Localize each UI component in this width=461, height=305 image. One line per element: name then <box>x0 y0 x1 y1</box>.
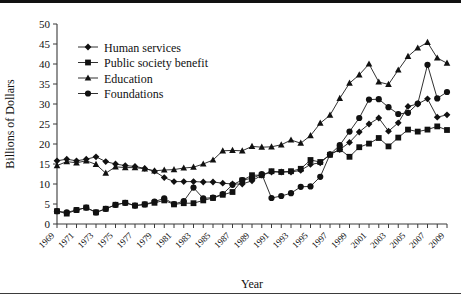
x-tick-label: 2005 <box>388 230 408 250</box>
data-point <box>269 168 275 174</box>
data-point <box>103 206 109 212</box>
x-tick-label: 1973 <box>76 230 96 250</box>
bottom-divider-rule <box>0 293 461 294</box>
data-point <box>346 129 352 135</box>
y-tick-label: 40 <box>39 58 51 70</box>
x-tick-label: 1985 <box>193 230 213 250</box>
series-line <box>57 99 447 184</box>
chart-figure: 0510152025303540455019691971197319751977… <box>0 0 461 305</box>
x-tick-label: 1979 <box>134 230 154 250</box>
data-point <box>93 153 100 160</box>
y-tick-label: 45 <box>39 38 51 50</box>
data-point <box>395 111 401 117</box>
data-point <box>405 110 411 116</box>
data-point <box>444 60 451 66</box>
data-point <box>414 44 421 50</box>
data-point <box>405 127 411 133</box>
data-point <box>415 129 421 135</box>
legend-marker-triangle <box>85 74 92 80</box>
data-point <box>385 104 391 110</box>
data-point <box>395 135 401 141</box>
x-tick-label: 1981 <box>154 230 174 250</box>
chart-legend: Human servicesPublic society benefitEduc… <box>78 41 209 102</box>
data-point <box>434 114 441 121</box>
data-point <box>376 96 382 102</box>
y-tick-label: 20 <box>39 138 51 150</box>
data-point <box>347 154 353 160</box>
data-point <box>434 95 440 101</box>
x-tick-label: 1989 <box>232 230 252 250</box>
data-point <box>327 151 333 157</box>
legend-label: Foundations <box>104 87 164 101</box>
legend-label: Education <box>104 72 153 86</box>
data-point <box>180 178 187 185</box>
data-point <box>259 171 265 177</box>
data-point <box>230 189 236 195</box>
data-point <box>181 198 187 204</box>
data-point <box>142 201 148 207</box>
top-divider-rule <box>0 0 461 3</box>
data-point <box>219 180 226 187</box>
legend-marker-diamond <box>85 44 92 51</box>
data-point <box>337 142 343 148</box>
y-tick-label: 5 <box>45 198 51 210</box>
x-tick-label: 1999 <box>329 230 349 250</box>
data-point <box>191 200 197 206</box>
legend-label: Human services <box>104 41 181 55</box>
y-tick-label: 15 <box>39 158 51 170</box>
x-tick-label: 1969 <box>37 230 57 250</box>
legend-marker-circle <box>85 90 91 96</box>
data-point <box>190 178 197 185</box>
y-tick-label: 0 <box>45 218 51 230</box>
x-tick-label: 2001 <box>349 230 369 250</box>
y-axis-title: Billions of Dollars <box>3 79 17 169</box>
x-tick-label: 1995 <box>290 230 310 250</box>
data-point <box>434 54 441 60</box>
series-line <box>57 126 447 213</box>
y-tick-label: 25 <box>39 118 51 130</box>
data-point <box>405 53 412 59</box>
data-point <box>317 159 323 165</box>
x-tick-label: 2007 <box>407 230 427 250</box>
x-tick-label: 1997 <box>310 230 330 250</box>
x-tick-label: 1987 <box>212 230 232 250</box>
data-point <box>405 103 412 110</box>
x-tick-label: 1975 <box>95 230 115 250</box>
x-axis-title: Year <box>241 277 263 291</box>
y-tick-label: 10 <box>39 178 51 190</box>
data-point <box>366 141 372 147</box>
data-point <box>229 182 235 188</box>
data-point <box>317 120 324 126</box>
data-point <box>424 39 431 45</box>
data-point <box>327 112 334 118</box>
data-point <box>444 89 450 95</box>
x-tick-label: 2003 <box>368 230 388 250</box>
data-point <box>317 174 323 180</box>
x-tick-label: 1993 <box>271 230 291 250</box>
line-chart: 0510152025303540455019691971197319751977… <box>0 0 461 305</box>
data-point <box>336 95 343 101</box>
data-point <box>376 135 382 141</box>
data-point <box>366 60 373 66</box>
y-tick-label: 35 <box>39 78 51 90</box>
data-point <box>102 158 109 165</box>
data-point <box>112 202 118 208</box>
data-point <box>93 209 99 215</box>
data-point <box>434 124 440 130</box>
data-point <box>132 203 138 209</box>
data-point <box>375 115 382 122</box>
data-point <box>425 127 431 133</box>
y-tick-label: 30 <box>39 98 51 110</box>
x-tick-label: 1977 <box>115 230 135 250</box>
data-point <box>210 195 216 201</box>
data-point <box>83 205 89 211</box>
data-point <box>239 177 245 183</box>
y-tick-label: 50 <box>39 18 51 30</box>
x-tick-label: 1971 <box>56 230 76 250</box>
x-tick-label: 2009 <box>427 230 447 250</box>
data-point <box>249 143 256 149</box>
data-point <box>278 193 284 199</box>
data-point <box>200 179 207 186</box>
data-point <box>54 208 60 214</box>
data-point <box>307 183 313 189</box>
